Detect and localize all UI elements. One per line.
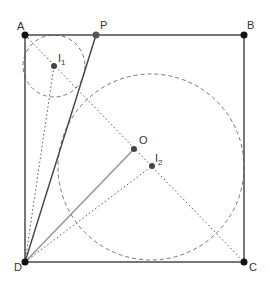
label-c: C [249, 261, 257, 273]
point-b [241, 32, 248, 39]
label-p: P [100, 19, 107, 31]
point-d [22, 259, 29, 266]
point-a [22, 32, 29, 39]
segment-di2 [25, 166, 152, 262]
segment-dp [25, 35, 96, 262]
geometry-diagram: A P B C D I1 O I2 [0, 0, 269, 281]
label-i1: I1 [58, 52, 66, 67]
point-p [93, 32, 100, 39]
segment-di1 [25, 66, 54, 262]
label-i2: I2 [155, 152, 163, 167]
label-b: B [247, 19, 254, 31]
point-c [241, 259, 248, 266]
label-a: A [17, 20, 25, 32]
point-o [131, 146, 137, 152]
segment-do [25, 149, 134, 262]
label-o: O [139, 134, 148, 146]
label-d: D [14, 261, 22, 273]
point-i1 [51, 63, 57, 69]
